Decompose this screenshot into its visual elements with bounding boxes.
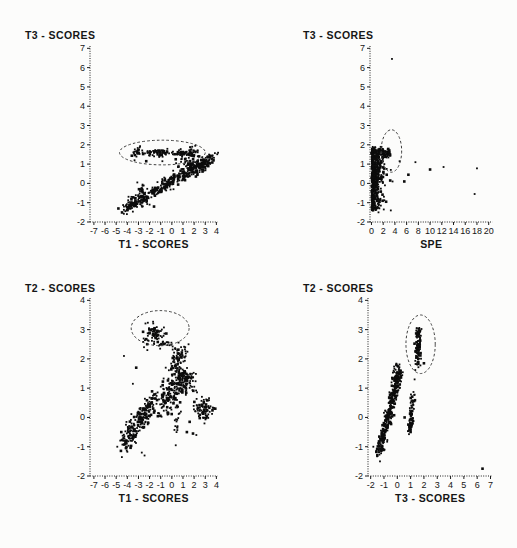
x-tick-label: 6 [404,226,409,236]
y-tick-label: 1 [80,383,85,393]
x-tick-label: -2 [146,480,154,490]
x-tick-label: 7 [488,480,493,490]
x-tick-label: 1 [180,480,185,490]
y-tick-label: -2 [77,217,85,227]
x-tick-label: 6 [475,480,480,490]
x-tick-label: 4 [214,226,219,236]
y-tick-label: 3 [80,325,85,335]
x-tick-label: 3 [203,480,208,490]
y-tick-label: 2 [358,354,363,364]
x-tick-label: 8 [416,226,421,236]
x-tick-label: 18 [472,226,482,236]
x-tick-label: -7 [90,480,98,490]
x-tick-label: -3 [134,480,142,490]
x-axis-label: SPE [420,238,442,250]
x-tick-label: -6 [101,480,109,490]
y-tick-label: 2 [360,140,365,150]
y-tick-label: 1 [358,383,363,393]
x-axis-label: T1 - SCORES [119,492,189,504]
y-tick-label: 5 [360,82,365,92]
scatterplot-t2-vs-t1: T2 - SCORES -7-6-5-4-3-2-10123443210-1-2… [10,272,260,528]
y-tick-label: 3 [80,121,85,131]
x-tick-label: 2 [192,226,197,236]
axes [367,46,493,225]
y-axis-title: T2 - SCORES [25,282,95,294]
y-tick-label: 4 [80,101,85,111]
x-tick-label: 2 [421,480,426,490]
x-tick-label: 1 [180,226,185,236]
x-tick-label: -4 [123,226,131,236]
x-tick-label: 4 [392,226,397,236]
x-tick-label: 0 [169,226,174,236]
x-tick-label: 4 [214,480,219,490]
x-tick-label: -1 [380,480,388,490]
y-tick-label: -2 [355,471,363,481]
x-tick-label: -5 [112,480,120,490]
x-tick-label: 2 [381,226,386,236]
y-tick-label: 1 [360,159,365,169]
tick-labels: -2-10123456743210-1-2 [355,295,493,490]
scatterplot-t3-vs-t1: T3 - SCORES -7-6-5-4-3-2-10123476543210-… [10,18,260,264]
y-tick-label: 5 [80,82,85,92]
y-tick-label: 6 [360,63,365,73]
y-axis-title: T3 - SCORES [25,29,95,41]
axes [87,298,218,479]
x-tick-label: 0 [395,480,400,490]
y-tick-label: 7 [360,43,365,53]
y-tick-label: 0 [360,178,365,188]
x-tick-label: -4 [123,480,131,490]
x-tick-label: 1 [408,480,413,490]
y-tick-label: -2 [357,217,365,227]
y-tick-label: 6 [80,63,85,73]
y-tick-label: 2 [80,354,85,364]
x-tick-label: 12 [437,226,447,236]
x-tick-label: 0 [369,226,374,236]
y-tick-label: 0 [80,412,85,422]
x-tick-label: -1 [157,226,165,236]
x-tick-label: 3 [203,226,208,236]
x-tick-label: 10 [425,226,435,236]
x-tick-label: -2 [367,480,375,490]
y-tick-label: -1 [355,442,363,452]
y-tick-label: 4 [358,295,363,305]
y-tick-label: 3 [360,121,365,131]
y-axis-title: T3 - SCORES [303,29,373,41]
y-tick-label: 4 [360,101,365,111]
x-tick-label: -3 [134,226,142,236]
y-tick-label: -1 [77,198,85,208]
x-tick-label: -6 [101,226,109,236]
x-tick-label: 5 [461,480,466,490]
y-tick-label: 3 [358,325,363,335]
score-plots-figure: T3 - SCORES -7-6-5-4-3-2-10123476543210-… [0,0,517,548]
data-points [371,58,478,213]
x-tick-label: 2 [192,480,197,490]
y-tick-label: -1 [357,198,365,208]
y-tick-label: 1 [80,159,85,169]
data-points [372,327,483,470]
y-tick-label: 0 [358,412,363,422]
x-axis-label: T3 - SCORES [395,492,465,504]
scatterplot-t2-vs-t3: T2 - SCORES -2-10123456743210-1-2 T3 - S… [260,272,510,528]
y-tick-label: -2 [77,471,85,481]
x-tick-label: -7 [90,226,98,236]
y-tick-label: 7 [80,43,85,53]
annotation-ellipse [131,311,189,346]
y-tick-label: 2 [80,140,85,150]
x-tick-label: 14 [449,226,459,236]
x-tick-label: -2 [146,226,154,236]
scatterplot-t3-vs-spe: T3 - SCORES 0246810121416182076543210-1-… [260,18,510,264]
x-tick-label: 16 [460,226,470,236]
axes [87,46,218,225]
tick-labels: -7-6-5-4-3-2-10123476543210-1-2 [77,43,219,236]
axes [365,298,493,479]
x-axis-label: T1 - SCORES [119,238,189,250]
y-tick-label: 4 [80,295,85,305]
x-tick-label: 20 [484,226,494,236]
data-points [117,145,219,215]
x-tick-label: -5 [112,226,120,236]
x-tick-label: 3 [435,480,440,490]
x-tick-label: 0 [169,480,174,490]
x-tick-label: 4 [448,480,453,490]
y-tick-label: -1 [77,442,85,452]
x-tick-label: -1 [157,480,165,490]
